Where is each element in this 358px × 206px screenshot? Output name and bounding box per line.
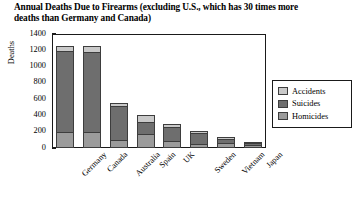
y-axis-tick-label: 0 xyxy=(42,143,46,152)
chart-title-line-1: Annual Deaths Due to Firearms (excluding… xyxy=(14,2,226,12)
bar-segment-suicides xyxy=(191,134,207,145)
bar-group[interactable] xyxy=(217,34,235,148)
bar-segment-homicides xyxy=(57,133,73,147)
y-axis-tick-label: 400 xyxy=(34,110,46,119)
y-axis-tick-label: 800 xyxy=(34,77,46,86)
bar-group[interactable] xyxy=(83,34,101,148)
x-axis-labels: GermanyCanadaAustraliaSpainUKSwedenVietn… xyxy=(52,148,266,206)
bar-stack[interactable] xyxy=(56,46,74,148)
x-axis-label: Germany xyxy=(80,150,108,178)
x-axis-label: UK xyxy=(182,150,197,165)
bar-stack[interactable] xyxy=(217,137,235,148)
bar-group[interactable] xyxy=(163,34,181,148)
legend-label: Homicides xyxy=(292,112,328,121)
bar-segment-suicides xyxy=(164,128,180,142)
bar-segment-homicides xyxy=(111,141,127,147)
bar-group[interactable] xyxy=(137,34,155,148)
bar-segment-homicides xyxy=(245,146,261,147)
bar-group[interactable] xyxy=(56,34,74,148)
bar-group[interactable] xyxy=(110,34,128,148)
bar-segment-accidents xyxy=(138,116,154,123)
bar-stack[interactable] xyxy=(83,46,101,148)
x-axis-label: Spain xyxy=(157,150,177,170)
bar-stack[interactable] xyxy=(163,124,181,148)
bar-segment-suicides xyxy=(138,123,154,135)
bar-segment-suicides xyxy=(57,52,73,132)
y-axis-tick-label: 600 xyxy=(34,94,46,103)
y-axis-tick-label: 1400 xyxy=(29,29,46,38)
legend-item[interactable]: Suicides xyxy=(278,98,347,111)
legend-label: Suicides xyxy=(292,99,320,108)
y-axis-title: Deaths xyxy=(7,23,16,83)
bar-stack[interactable] xyxy=(137,115,155,148)
bar-segment-homicides xyxy=(138,135,154,147)
legend-item[interactable]: Homicides xyxy=(278,110,347,123)
bars-layer xyxy=(52,34,266,148)
legend-item[interactable]: Accidents xyxy=(278,85,347,98)
x-axis-label: Japan xyxy=(264,150,284,170)
bar-segment-suicides xyxy=(84,53,100,132)
legend-label: Accidents xyxy=(292,87,326,96)
x-axis-label: Sweden xyxy=(213,150,238,175)
bar-stack[interactable] xyxy=(110,103,128,148)
chart-legend: AccidentsSuicidesHomicides xyxy=(272,80,352,128)
y-axis-tick-label: 1000 xyxy=(29,61,46,70)
bar-segment-homicides xyxy=(218,144,234,147)
x-axis-label: Canada xyxy=(105,150,129,174)
chart-title: Annual Deaths Due to Firearms (excluding… xyxy=(14,2,304,24)
bar-group[interactable] xyxy=(190,34,208,148)
legend-swatch xyxy=(278,112,288,120)
y-axis-tick-label: 1200 xyxy=(29,45,46,54)
bar-group[interactable] xyxy=(244,34,262,148)
legend-swatch xyxy=(278,87,288,95)
bar-segment-homicides xyxy=(191,145,207,147)
x-axis-label: Vietnam xyxy=(240,150,266,176)
bar-segment-homicides xyxy=(164,142,180,147)
bar-segment-suicides xyxy=(111,107,127,141)
legend-swatch xyxy=(278,100,288,108)
bar-segment-homicides xyxy=(84,133,100,147)
bar-stack[interactable] xyxy=(190,131,208,148)
y-axis-tick-label: 200 xyxy=(34,126,46,135)
